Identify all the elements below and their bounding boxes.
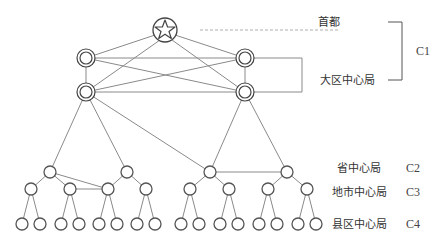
county-node[interactable]	[111, 218, 123, 230]
city-node[interactable]	[25, 183, 37, 195]
label-regional: 大区中心局	[320, 73, 375, 87]
city-node[interactable]	[262, 183, 274, 195]
network-hierarchy-diagram: 首都 大区中心局 C1 省中心局 C2 地市中心局 C3 县区中心局 C4	[0, 0, 439, 245]
label-county: 县区中心局	[332, 218, 387, 231]
regional-province-links	[50, 92, 287, 172]
level-c3: C3	[406, 185, 420, 199]
city-nodes	[25, 183, 313, 195]
regional-node[interactable]	[236, 83, 254, 101]
county-node[interactable]	[271, 218, 283, 230]
county-node[interactable]	[16, 218, 28, 230]
county-node[interactable]	[149, 218, 161, 230]
county-node[interactable]	[93, 218, 105, 230]
label-province: 省中心局	[337, 162, 381, 175]
label-city: 地市中心局	[332, 185, 387, 199]
label-capital: 首都	[318, 15, 340, 29]
county-node[interactable]	[34, 218, 46, 230]
city-node[interactable]	[223, 183, 235, 195]
city-node[interactable]	[301, 183, 313, 195]
city-node[interactable]	[64, 183, 76, 195]
city-node[interactable]	[102, 183, 114, 195]
county-node[interactable]	[73, 218, 85, 230]
c1-bracket	[388, 22, 402, 80]
city-node[interactable]	[140, 183, 152, 195]
county-node[interactable]	[55, 218, 67, 230]
county-node[interactable]	[193, 218, 205, 230]
county-node[interactable]	[310, 218, 322, 230]
province-node[interactable]	[44, 166, 56, 178]
county-node[interactable]	[232, 218, 244, 230]
regional-mesh-links	[86, 58, 302, 92]
capital-node[interactable]	[153, 18, 177, 42]
county-node[interactable]	[175, 218, 187, 230]
county-node[interactable]	[131, 218, 143, 230]
county-nodes	[16, 218, 322, 230]
regional-node[interactable]	[77, 83, 95, 101]
level-c1: C1	[416, 44, 430, 58]
city-node[interactable]	[184, 183, 196, 195]
regional-node[interactable]	[77, 49, 95, 67]
level-c4: C4	[406, 217, 420, 231]
province-node[interactable]	[204, 166, 216, 178]
county-node[interactable]	[214, 218, 226, 230]
regional-node[interactable]	[236, 49, 254, 67]
province-node[interactable]	[281, 166, 293, 178]
province-node[interactable]	[121, 166, 133, 178]
county-node[interactable]	[292, 218, 304, 230]
county-node[interactable]	[253, 218, 265, 230]
level-c2: C2	[406, 161, 420, 175]
